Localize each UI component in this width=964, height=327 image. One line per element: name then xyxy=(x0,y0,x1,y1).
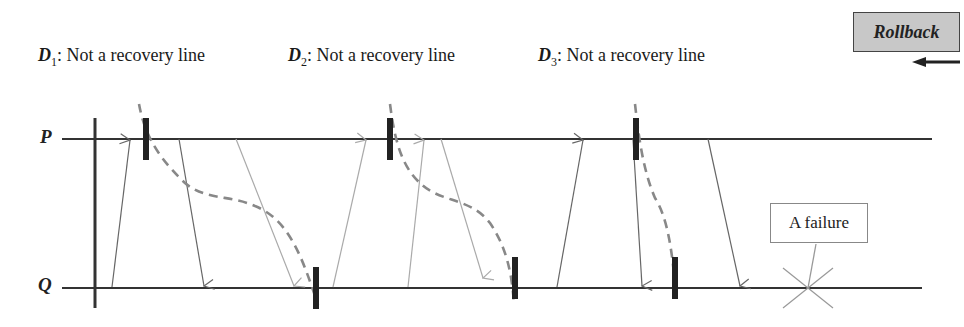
checkpoint-marker xyxy=(387,118,393,160)
message-arrow xyxy=(633,139,642,286)
message-arrow xyxy=(179,139,204,286)
recovery-line-d2 xyxy=(390,104,514,305)
checkpoint-marker xyxy=(313,267,319,309)
checkpoint-marker xyxy=(143,118,149,160)
message-arrow xyxy=(112,140,130,287)
checkpoint-marker xyxy=(633,118,639,160)
checkpoint-marker xyxy=(512,257,518,299)
x-star-icon xyxy=(783,244,833,308)
message-arrow xyxy=(408,140,424,287)
message-arrow xyxy=(708,139,740,286)
checkpoints-q xyxy=(313,257,678,309)
message-arrow xyxy=(333,140,366,287)
recovery-line-d1 xyxy=(139,104,318,305)
message-arrow xyxy=(557,140,583,287)
checkpoint-marker xyxy=(672,257,678,299)
checkpoint-diagram xyxy=(0,0,964,327)
message-arrow xyxy=(441,139,483,278)
message-arrow xyxy=(236,139,294,286)
rollback-arrow-icon xyxy=(912,57,960,67)
messages xyxy=(112,139,740,287)
